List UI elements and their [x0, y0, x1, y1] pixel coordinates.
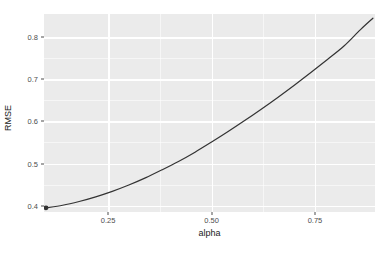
x-axis-tick-label: 0.75	[308, 216, 323, 225]
x-axis-tick-mark	[211, 212, 212, 215]
x-axis-ticks: 0.250.500.75	[0, 0, 388, 253]
x-axis-tick-mark	[315, 212, 316, 215]
x-axis-tick-label: 0.50	[204, 216, 219, 225]
x-axis-tick-mark	[108, 212, 109, 215]
x-axis-title: alpha	[44, 228, 375, 238]
chart-container: 0.40.50.60.70.8 0.250.500.75 alpha RMSE	[0, 0, 388, 253]
y-axis-title: RMSE	[3, 105, 13, 131]
x-axis-tick-label: 0.25	[101, 216, 116, 225]
